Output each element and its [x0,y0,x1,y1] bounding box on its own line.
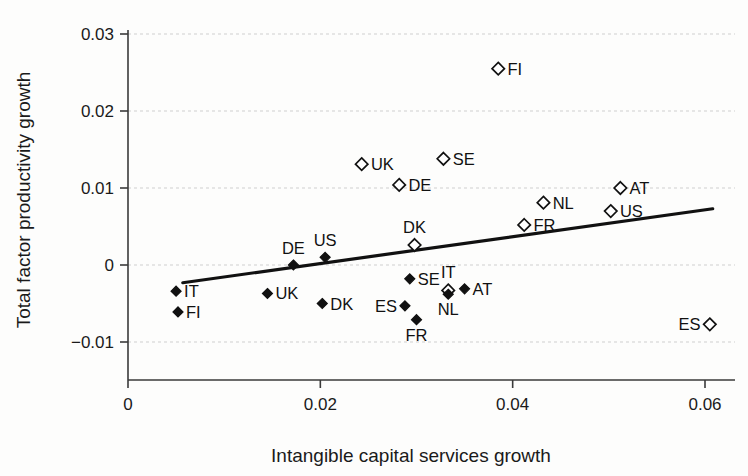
data-point-label-uk: UK [371,155,394,173]
data-point-marker-fi [492,62,504,74]
y-tick-label: 0 [105,256,114,275]
data-point-label-at: AT [630,179,650,197]
data-point-label-it: IT [184,282,199,300]
data-point-marker-fr [412,315,422,325]
data-point-marker-fi [173,307,183,317]
data-point-marker-es [400,301,410,311]
data-points: FISEUKDEATNLUSFRDKITESUSDESEATITUKNLDKES… [171,60,716,344]
y-axis-title: Total factor productivity growth [13,72,34,329]
data-point-marker-uk [262,288,272,298]
data-point-label-us: US [314,231,337,249]
data-point-label-fi: FI [507,60,522,78]
data-point-label-se: SE [418,270,440,288]
x-tick-label: 0.06 [688,395,721,414]
data-point-marker-dk [317,299,327,309]
data-point-marker-es [704,318,716,330]
data-point-marker-nl [537,196,549,208]
y-tick-label: 0.01 [81,179,114,198]
data-point-marker-at [460,284,470,294]
data-point-label-se: SE [453,150,475,168]
data-point-label-uk: UK [275,284,298,302]
x-tick-label: 0.02 [304,395,337,414]
data-point-label-at: AT [473,280,493,298]
data-point-marker-uk [355,158,367,170]
data-point-label-nl: NL [553,194,574,212]
x-tick-label: 0.04 [496,395,529,414]
data-point-marker-se [437,153,449,165]
data-point-marker-at [614,182,626,194]
data-point-label-dk: DK [330,295,353,313]
y-tick-label: 0.03 [81,25,114,44]
data-point-label-fi: FI [186,303,201,321]
data-point-label-de: DE [408,176,431,194]
x-axis-title: Intangible capital services growth [271,445,551,466]
axes [128,30,735,380]
data-point-label-de: DE [282,239,305,257]
data-point-marker-se [405,274,415,284]
data-point-label-it: IT [441,263,456,281]
chart-canvas: −0.0100.010.020.0300.020.040.06 FISEUKDE… [0,0,748,476]
y-tick-label: 0.02 [81,102,114,121]
data-point-marker-fr [518,219,530,231]
scatter-plot-figure: −0.0100.010.020.0300.020.040.06 FISEUKDE… [0,0,748,476]
data-point-label-es: ES [679,315,701,333]
data-point-label-fr: FR [533,216,555,234]
data-point-label-us: US [620,202,643,220]
x-tick-label: 0 [123,395,132,414]
data-point-label-es: ES [375,297,397,315]
data-point-marker-us [605,205,617,217]
data-point-label-dk: DK [403,218,426,236]
data-point-label-nl: NL [438,300,459,318]
data-point-marker-it [171,286,181,296]
data-point-label-fr: FR [406,326,428,344]
data-point-marker-de [393,179,405,191]
y-tick-label: −0.01 [71,333,114,352]
